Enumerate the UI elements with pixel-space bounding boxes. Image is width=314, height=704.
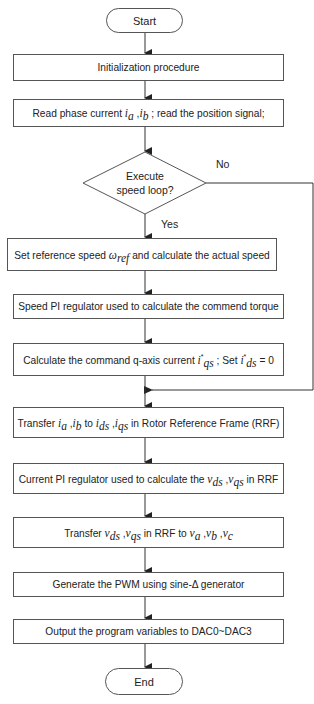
init-label: Initialization procedure [98,62,200,73]
calcq-process-box: Calculate the command q-axis current i*q… [13,343,284,376]
no-branch-label: No [216,158,229,170]
start-terminal: Start [106,8,183,33]
pwm-label: Generate the PWM using sine-Δ generator [53,579,245,590]
end-terminal: End [105,668,183,695]
decision-label: Execute speed loop? [95,169,195,197]
read-label: Read phase current ia ,ib ; read the pos… [33,107,265,119]
dac-label: Output the program variables to DAC0~DAC… [45,626,251,637]
end-label: End [134,676,154,688]
dac-process-box: Output the program variables to DAC0~DAC… [13,619,284,644]
init-process-box: Initialization procedure [13,54,284,81]
read-process-box: Read phase current ia ,ib ; read the pos… [13,99,284,127]
transfer2-process-box: Transfer vds ,vqs in RRF to va ,vb ,vc [13,517,284,548]
setref-label: Set reference speed ωref and calculate t… [14,249,270,261]
transfer1-label: Transfer ia ,ib to ids ,iqs in Rotor Ref… [18,417,280,429]
speedpi-process-box: Speed PI regulator used to calculate the… [13,294,284,319]
transfer1-process-box: Transfer ia ,ib to ids ,iqs in Rotor Ref… [13,407,284,438]
currentpi-process-box: Current PI regulator used to calculate t… [13,463,284,494]
flowchart: Start Initialization procedure Read phas… [0,0,314,704]
pwm-process-box: Generate the PWM using sine-Δ generator [13,572,284,597]
speedpi-label: Speed PI regulator used to calculate the… [18,301,279,312]
transfer2-label: Transfer vds ,vqs in RRF to va ,vb ,vc [64,527,233,539]
setref-process-box: Set reference speed ωref and calculate t… [7,238,277,271]
yes-branch-label: Yes [161,218,178,230]
currentpi-label: Current PI regulator used to calculate t… [19,473,278,485]
calcq-label: Calculate the command q-axis current i*q… [23,354,274,366]
start-label: Start [133,15,156,27]
